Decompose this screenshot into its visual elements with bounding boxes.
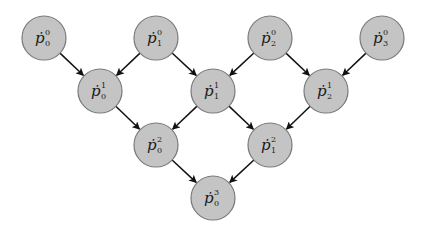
node-subscript: 0 [45,39,50,48]
node-superscript: 0 [45,28,50,37]
node-superscript: 0 [383,28,388,37]
node-label: ṗ [317,82,327,100]
node-superscript: 0 [157,28,162,37]
node-label: ṗ [373,29,383,47]
node-label: ṗ [147,29,157,47]
node-p0_2: ṗ20 [134,123,178,167]
node-p1_2: ṗ21 [248,123,292,167]
node-label: ṗ [35,29,45,47]
node-superscript: 1 [327,81,332,90]
node-p0_3: ṗ30 [191,176,235,220]
node-subscript: 0 [214,199,219,208]
node-p3_0: ṗ03 [360,16,404,60]
edge-arrow-p1_0-to-p0_1 [117,53,140,75]
node-superscript: 1 [101,81,106,90]
node-subscript: 3 [383,39,388,48]
node-superscript: 2 [271,135,276,144]
edge-arrow-p2_0-to-p2_1 [286,53,309,75]
node-subscript: 1 [157,39,162,48]
node-label: ṗ [91,82,101,100]
edge-arrow-p1_1-to-p0_2 [173,106,197,129]
node-label: ṗ [204,82,214,100]
node-p2_1: ṗ12 [304,69,348,113]
edge-arrow-p2_0-to-p1_1 [230,53,254,75]
node-label: ṗ [261,29,271,47]
node-label: ṗ [204,189,214,207]
nodes-group: ṗ00ṗ01ṗ02ṗ03ṗ10ṗ11ṗ12ṗ20ṗ21ṗ30 [22,16,404,220]
edge-arrow-p0_1-to-p0_2 [116,106,140,129]
node-superscript: 3 [214,188,219,197]
node-superscript: 0 [271,28,276,37]
node-subscript: 0 [101,92,106,101]
node-label: ṗ [261,136,271,154]
node-subscript: 1 [271,146,276,155]
edge-arrow-p0_2-to-p0_3 [172,160,196,182]
edge-arrow-p2_1-to-p1_2 [287,106,311,129]
node-p0_0: ṗ00 [22,16,66,60]
edge-arrow-p1_2-to-p0_3 [230,160,254,182]
node-label: ṗ [147,136,157,154]
node-subscript: 2 [271,39,276,48]
edge-arrow-p3_0-to-p2_1 [343,53,366,75]
node-subscript: 0 [157,146,162,155]
node-superscript: 1 [214,81,219,90]
edge-arrow-p1_0-to-p1_1 [172,53,196,75]
node-p1_1: ṗ11 [191,69,235,113]
node-p1_0: ṗ01 [134,16,178,60]
node-subscript: 2 [327,92,332,101]
node-superscript: 2 [157,135,162,144]
node-subscript: 1 [214,92,219,101]
lattice-diagram: ṗ00ṗ01ṗ02ṗ03ṗ10ṗ11ṗ12ṗ20ṗ21ṗ30 [0,0,424,235]
edge-arrow-p1_1-to-p1_2 [229,106,253,129]
node-p2_0: ṗ02 [248,16,292,60]
node-p0_1: ṗ10 [78,69,122,113]
edge-arrow-p0_0-to-p0_1 [60,53,83,75]
